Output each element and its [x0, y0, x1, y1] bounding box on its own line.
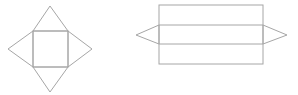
- triangle-face-left: [136, 25, 159, 44]
- triangle-face-right: [263, 25, 287, 44]
- triangle-face-right: [68, 31, 92, 67]
- triangle-face-left: [8, 31, 33, 67]
- square-pyramid-net: [8, 6, 92, 92]
- triangle-face-top: [33, 6, 68, 31]
- square-base: [33, 31, 68, 67]
- triangle-face-bottom: [33, 67, 68, 92]
- rectangle-faces: [159, 5, 263, 64]
- triangular-prism-net: [136, 5, 287, 64]
- nets-diagram: [0, 0, 298, 95]
